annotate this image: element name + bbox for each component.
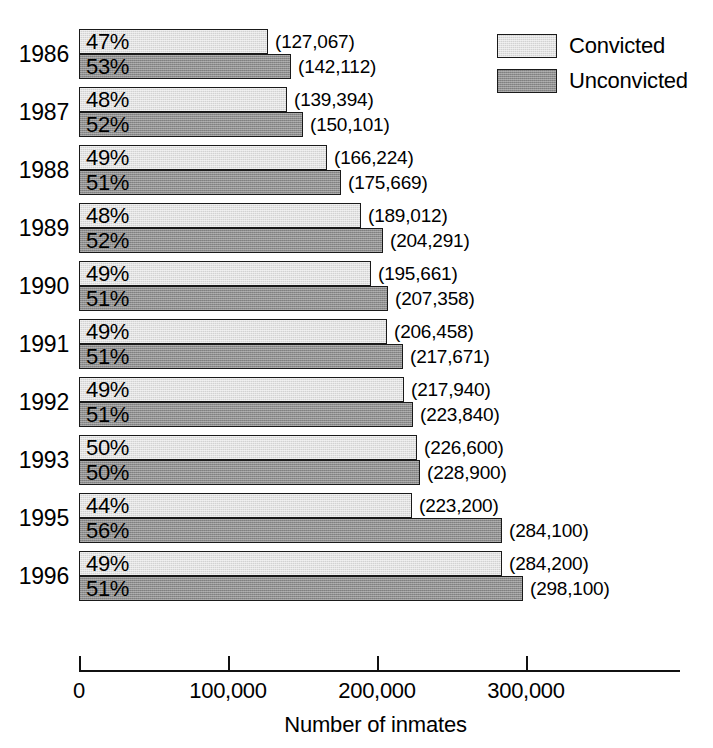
legend-label-unconvicted: Unconvicted: [569, 68, 688, 94]
bar-percent-label: 49%: [80, 321, 129, 343]
year-axis-label: 1995: [0, 493, 75, 543]
chart-row: 199649%(284,200)51%(298,100): [0, 551, 713, 601]
year-axis-label: 1987: [0, 87, 75, 137]
bar-value-label: (204,291): [390, 228, 470, 253]
bar-percent-label: 51%: [80, 404, 129, 426]
bar-unconvicted[interactable]: 51%: [79, 576, 523, 601]
chart-row: 198948%(189,012)52%(204,291): [0, 203, 713, 253]
bar-value-label: (223,840): [420, 402, 500, 427]
x-axis-tick-label: 0: [73, 678, 85, 704]
year-axis-label: 1996: [0, 551, 75, 601]
bar-value-label: (223,200): [419, 493, 499, 518]
bar-convicted[interactable]: 49%: [79, 551, 502, 576]
bar-percent-label: 49%: [80, 263, 129, 285]
bar-value-label: (226,600): [424, 435, 504, 460]
bar-percent-label: 51%: [80, 288, 129, 310]
bar-unconvicted[interactable]: 56%: [79, 518, 502, 543]
bar-percent-label: 50%: [80, 437, 129, 459]
bar-value-label: (284,200): [509, 551, 589, 576]
x-axis-tick-label: 100,000: [189, 678, 266, 704]
chart-row: 199149%(206,458)51%(217,671): [0, 319, 713, 369]
bar-value-label: (189,012): [368, 203, 448, 228]
legend-label-convicted: Convicted: [569, 33, 665, 59]
x-axis-title: Number of inmates: [0, 712, 713, 738]
legend-item-convicted[interactable]: Convicted: [497, 33, 688, 58]
legend-swatch-unconvicted: [497, 69, 557, 93]
chart-row: 199049%(195,661)51%(207,358): [0, 261, 713, 311]
bar-percent-label: 50%: [80, 462, 129, 484]
bar-unconvicted[interactable]: 50%: [79, 460, 420, 485]
bar-convicted[interactable]: 49%: [79, 319, 387, 344]
bar-chart: 198647%(127,067)53%(142,112)198748%(139,…: [0, 0, 713, 748]
chart-row: 199350%(226,600)50%(228,900): [0, 435, 713, 485]
bar-percent-label: 51%: [80, 172, 129, 194]
bar-value-label: (142,112): [298, 54, 376, 79]
bar-convicted[interactable]: 48%: [79, 87, 287, 112]
bar-percent-label: 49%: [80, 147, 129, 169]
x-axis-line: [79, 670, 680, 672]
bar-percent-label: 51%: [80, 578, 129, 600]
bar-percent-label: 51%: [80, 346, 129, 368]
bar-value-label: (166,224): [334, 145, 414, 170]
bar-percent-label: 49%: [80, 379, 129, 401]
chart-row: 199249%(217,940)51%(223,840): [0, 377, 713, 427]
year-axis-label: 1986: [0, 29, 75, 79]
x-axis-tick: [377, 656, 379, 671]
bar-percent-label: 47%: [80, 31, 129, 53]
year-axis-label: 1991: [0, 319, 75, 369]
bar-convicted[interactable]: 44%: [79, 493, 412, 518]
x-axis-tick: [228, 656, 230, 671]
bar-convicted[interactable]: 49%: [79, 261, 371, 286]
bar-unconvicted[interactable]: 52%: [79, 112, 303, 137]
bar-percent-label: 52%: [80, 114, 129, 136]
bar-percent-label: 52%: [80, 230, 129, 252]
bar-percent-label: 53%: [80, 56, 129, 78]
bar-unconvicted[interactable]: 51%: [79, 344, 403, 369]
year-axis-label: 1992: [0, 377, 75, 427]
chart-row: 199544%(223,200)56%(284,100): [0, 493, 713, 543]
bar-unconvicted[interactable]: 51%: [79, 170, 341, 195]
x-axis-tick: [526, 656, 528, 671]
bar-convicted[interactable]: 48%: [79, 203, 361, 228]
bar-convicted[interactable]: 50%: [79, 435, 417, 460]
bar-value-label: (175,669): [348, 170, 428, 195]
bar-value-label: (284,100): [509, 518, 589, 543]
bar-unconvicted[interactable]: 51%: [79, 286, 388, 311]
bar-value-label: (207,358): [395, 286, 475, 311]
bar-convicted[interactable]: 49%: [79, 145, 327, 170]
bar-unconvicted[interactable]: 52%: [79, 228, 383, 253]
bar-value-label: (150,101): [310, 112, 390, 137]
year-axis-label: 1993: [0, 435, 75, 485]
bar-value-label: (217,940): [411, 377, 491, 402]
bar-convicted[interactable]: 49%: [79, 377, 404, 402]
bar-value-label: (217,671): [410, 344, 490, 369]
bar-value-label: (228,900): [427, 460, 507, 485]
chart-row: 198849%(166,224)51%(175,669): [0, 145, 713, 195]
bar-value-label: (127,067): [275, 29, 355, 54]
chart-legend: ConvictedUnconvicted: [497, 33, 688, 103]
bar-percent-label: 44%: [80, 495, 129, 517]
x-axis-tick: [79, 656, 81, 671]
bar-percent-label: 49%: [80, 553, 129, 575]
year-axis-label: 1989: [0, 203, 75, 253]
bar-value-label: (206,458): [394, 319, 474, 344]
bar-convicted[interactable]: 47%: [79, 29, 268, 54]
year-axis-label: 1988: [0, 145, 75, 195]
x-axis-tick-label: 200,000: [338, 678, 415, 704]
bar-value-label: (139,394): [294, 87, 374, 112]
bar-unconvicted[interactable]: 53%: [79, 54, 291, 79]
x-axis-title-text: Number of inmates: [246, 712, 466, 738]
year-axis-label: 1990: [0, 261, 75, 311]
bar-percent-label: 48%: [80, 89, 129, 111]
bar-percent-label: 56%: [80, 520, 129, 542]
legend-swatch-convicted: [497, 34, 557, 58]
bar-value-label: (195,661): [378, 261, 458, 286]
bar-unconvicted[interactable]: 51%: [79, 402, 413, 427]
legend-item-unconvicted[interactable]: Unconvicted: [497, 68, 688, 93]
bar-value-label: (298,100): [530, 576, 610, 601]
bar-percent-label: 48%: [80, 205, 129, 227]
x-axis-tick-label: 300,000: [487, 678, 564, 704]
